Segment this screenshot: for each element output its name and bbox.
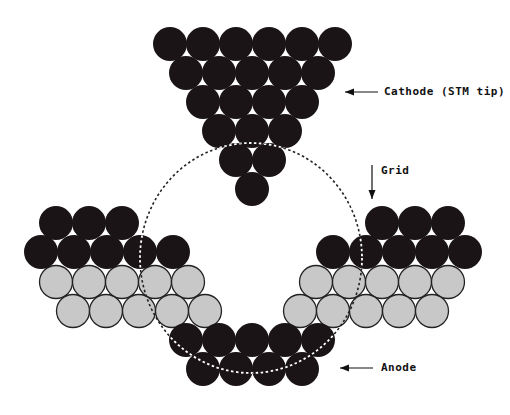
cathode-dark-atom	[202, 56, 236, 90]
left_electrode-gray-atom	[156, 295, 189, 328]
left_electrode-gray-atom	[106, 266, 139, 299]
cathode-dark-atom	[252, 143, 286, 177]
right_electrode-dark-atom	[382, 235, 416, 269]
cathode-dark-atom	[285, 85, 319, 119]
left_electrode-dark-atom	[24, 235, 58, 269]
cathode-dark-atom	[252, 27, 286, 61]
right_electrode-dark-atom	[448, 235, 482, 269]
cathode-dark-atom	[202, 114, 236, 148]
right_electrode-gray-atom	[383, 295, 416, 328]
anode-dark-atom	[285, 352, 319, 386]
left_electrode-gray-atom	[40, 266, 73, 299]
cathode-dark-atom	[285, 27, 319, 61]
dark-atoms-layer	[24, 27, 482, 386]
right_electrode-gray-atom	[317, 295, 350, 328]
anode-arrow-icon	[340, 365, 373, 372]
cathode-dark-atom	[219, 27, 253, 61]
anode-dark-atom	[202, 323, 236, 357]
left_electrode-dark-atom	[90, 235, 124, 269]
left_electrode-dark-atom	[57, 235, 91, 269]
cathode-dark-atom	[235, 172, 269, 206]
cathode-dark-atom	[219, 143, 253, 177]
grid-label: Grid	[381, 164, 410, 177]
left_electrode-dark-atom	[105, 206, 139, 240]
cathode-dark-atom	[268, 56, 302, 90]
right_electrode-gray-atom	[333, 266, 366, 299]
right_electrode-dark-atom	[431, 206, 465, 240]
left_electrode-dark-atom	[39, 206, 73, 240]
cathode-dark-atom	[301, 56, 335, 90]
anode-dark-atom	[219, 352, 253, 386]
grid-arrow-icon	[369, 165, 376, 199]
stm-diagram	[0, 0, 510, 415]
left_electrode-gray-atom	[90, 295, 123, 328]
cathode-dark-atom	[186, 27, 220, 61]
cathode-dark-atom	[268, 114, 302, 148]
right_electrode-dark-atom	[316, 235, 350, 269]
cathode-dark-atom	[318, 27, 352, 61]
right_electrode-gray-atom	[300, 266, 333, 299]
gray-atoms-layer	[40, 266, 465, 328]
left_electrode-gray-atom	[57, 295, 90, 328]
right_electrode-dark-atom	[415, 235, 449, 269]
right_electrode-gray-atom	[432, 266, 465, 299]
cathode-dark-atom	[235, 56, 269, 90]
left_electrode-dark-atom	[72, 206, 106, 240]
right_electrode-dark-atom	[398, 206, 432, 240]
anode-dark-atom	[301, 323, 335, 357]
anode-label: Anode	[381, 361, 417, 374]
right_electrode-gray-atom	[399, 266, 432, 299]
right_electrode-dark-atom	[365, 206, 399, 240]
cathode-label: Cathode (STM tip)	[384, 85, 505, 98]
anode-dark-atom	[186, 352, 220, 386]
cathode-dark-atom	[153, 27, 187, 61]
anode-dark-atom	[268, 323, 302, 357]
left_electrode-gray-atom	[189, 295, 222, 328]
cathode-dark-atom	[219, 85, 253, 119]
cathode-dark-atom	[169, 56, 203, 90]
cathode-dark-atom	[186, 85, 220, 119]
cathode-arrow-icon	[345, 89, 378, 96]
right_electrode-gray-atom	[284, 295, 317, 328]
left_electrode-gray-atom	[172, 266, 205, 299]
right_electrode-gray-atom	[416, 295, 449, 328]
left_electrode-gray-atom	[73, 266, 106, 299]
left_electrode-gray-atom	[139, 266, 172, 299]
right_electrode-dark-atom	[349, 235, 383, 269]
right_electrode-gray-atom	[366, 266, 399, 299]
left_electrode-dark-atom	[156, 235, 190, 269]
left_electrode-gray-atom	[123, 295, 156, 328]
anode-dark-atom	[235, 323, 269, 357]
cathode-dark-atom	[252, 85, 286, 119]
